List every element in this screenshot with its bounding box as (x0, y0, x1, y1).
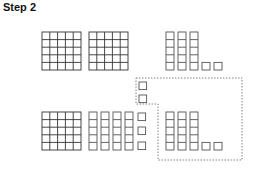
regrouping-dotted-box (136, 78, 242, 160)
bottom-tens-column-3 (113, 112, 121, 150)
bottom-tens-column-2 (101, 112, 109, 150)
top-one-unit-2 (214, 62, 222, 70)
boxed-tens-column-2 (178, 112, 186, 150)
boxed-tens-columns (166, 112, 198, 150)
boxed-one-unit-1 (202, 142, 210, 150)
boxed-tens-column-1 (166, 112, 174, 150)
bottom-hundred-grid (42, 112, 81, 150)
bottom-tens-columns (89, 112, 133, 150)
bottom-tens-column-4 (125, 112, 133, 150)
spaced-unit-2 (138, 127, 146, 135)
top-hundred-grid-2 (89, 32, 128, 70)
boxed-tens-column-3 (190, 112, 198, 150)
spaced-unit-3 (138, 142, 146, 150)
top-one-unit-1 (202, 62, 210, 70)
moved-units (139, 82, 147, 103)
boxed-one-unit-2 (214, 142, 222, 150)
top-tens-column-3 (190, 32, 198, 70)
base-ten-blocks-diagram (0, 0, 254, 172)
bottom-tens-column-1 (89, 112, 97, 150)
top-tens-columns (166, 32, 198, 70)
moved-unit-2 (139, 95, 147, 103)
top-hundred-grid-1 (42, 32, 81, 70)
bottom-spaced-units (138, 113, 146, 150)
spaced-unit-1 (138, 113, 146, 121)
moved-unit-1 (139, 82, 147, 90)
top-tens-column-2 (178, 32, 186, 70)
boxed-ones-units (202, 142, 222, 150)
top-tens-column-1 (166, 32, 174, 70)
top-ones-units (202, 62, 222, 70)
